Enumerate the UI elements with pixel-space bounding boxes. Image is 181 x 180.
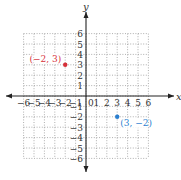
x-tick-label: 1 bbox=[94, 98, 100, 108]
y-tick-label: 1 bbox=[77, 81, 83, 91]
y-tick-label: 4 bbox=[77, 50, 83, 60]
y-tick-label: −2 bbox=[70, 112, 83, 122]
y-tick-label: −6 bbox=[70, 154, 84, 164]
y-tick-label: −3 bbox=[70, 123, 84, 133]
x-axis-label: x bbox=[176, 91, 181, 102]
x-tick-label: 3 bbox=[114, 98, 120, 108]
x-tick-label: 5 bbox=[135, 98, 141, 108]
y-tick-label: 5 bbox=[77, 40, 83, 50]
y-tick-label: −5 bbox=[70, 144, 84, 154]
y-tick-label: 6 bbox=[77, 29, 83, 39]
x-tick-label: 4 bbox=[125, 98, 131, 108]
point-label: (−2, 3) bbox=[29, 54, 61, 64]
axes bbox=[6, 12, 174, 172]
y-axis-down-arrow-icon bbox=[84, 166, 89, 172]
y-tick-label: 3 bbox=[77, 60, 83, 70]
y-tick-label: −1 bbox=[70, 102, 83, 112]
y-tick-label: 2 bbox=[77, 71, 83, 81]
coordinate-plane: −6−5−4−3−2−1123456654321−1−2−3−4−5−6 x y… bbox=[0, 0, 181, 180]
x-tick-label: 6 bbox=[146, 98, 152, 108]
y-axis-label: y bbox=[82, 1, 89, 12]
y-axis-up-arrow-icon bbox=[84, 12, 89, 18]
origin-label: 0 bbox=[88, 98, 94, 108]
x-axis-right-arrow-icon bbox=[168, 94, 174, 99]
x-tick-label: 2 bbox=[104, 98, 110, 108]
data-point-marker bbox=[115, 115, 119, 119]
point-label: (3, −2) bbox=[120, 118, 152, 128]
x-axis-left-arrow-icon bbox=[6, 94, 12, 99]
data-point-marker bbox=[63, 63, 67, 67]
y-tick-label: −4 bbox=[70, 133, 84, 143]
